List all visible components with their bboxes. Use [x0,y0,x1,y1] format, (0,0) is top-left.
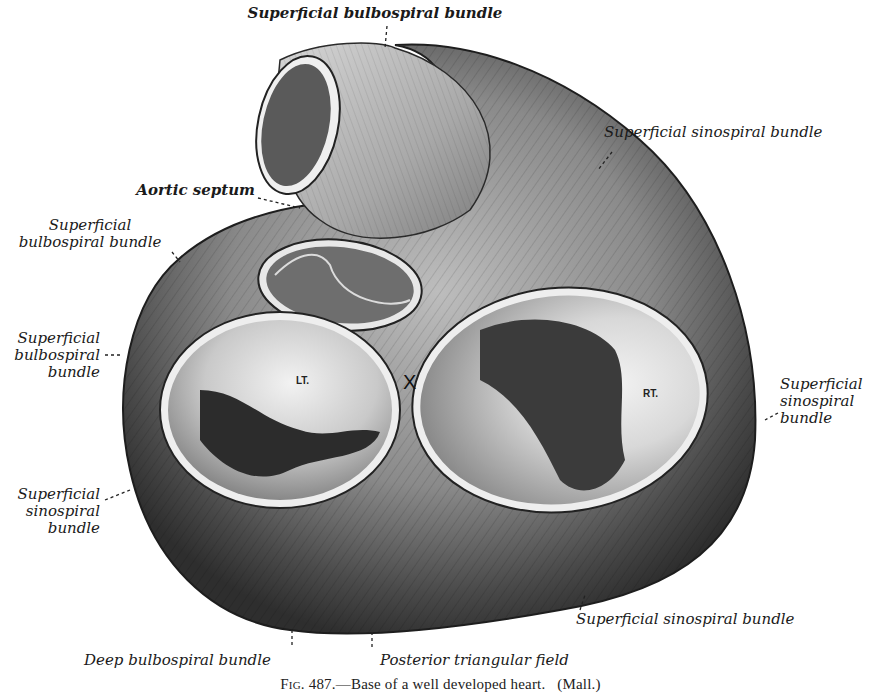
label-right-middle-superficial-sinospiral: Superficial sinospiral bundle [780,376,863,427]
label-line: Superficial [0,330,100,347]
label-line: bundle [780,410,863,427]
x-marker: X [403,371,416,394]
label-upper-right-superficial-sinospiral: Superficial sinospiral bundle [604,124,822,141]
label-left-middle-superficial-bulbospiral: Superficial bulbospiral bundle [0,330,100,381]
label-left-upper-superficial-bulbospiral: Superficial bulbospiral bundle [5,217,175,251]
caption-prefix: Fig. [280,676,305,692]
label-line: bulbospiral [0,347,100,364]
label-line: bundle [0,520,100,537]
caption-text: —Base of a well developed heart. [336,676,546,692]
label-line: sinospiral [780,393,863,410]
label-aortic-septum: Aortic septum [90,182,255,199]
caption-credit: (Mall.) [557,676,600,692]
figure-caption: Fig. 487.—Base of a well developed heart… [0,676,881,693]
chamber-label-right: RT. [643,388,658,399]
chamber-label-left: LT. [296,375,309,386]
label-line: bulbospiral bundle [5,234,175,251]
label-line: Superficial [0,486,100,503]
label-top-superficial-bulbospiral: Superficial bulbospiral bundle [195,5,555,22]
label-deep-bulbospiral: Deep bulbospiral bundle [84,652,271,669]
heart-base-illustration [0,0,881,699]
label-line: Superficial [780,376,863,393]
label-line: Superficial [5,217,175,234]
label-bottom-right-superficial-sinospiral: Superficial sinospiral bundle [576,611,794,628]
label-left-lower-superficial-sinospiral: Superficial sinospiral bundle [0,486,100,537]
label-line: bundle [0,364,100,381]
label-posterior-triangular-field: Posterior triangular field [380,652,569,669]
caption-number: 487. [309,676,336,692]
label-line: sinospiral [0,503,100,520]
